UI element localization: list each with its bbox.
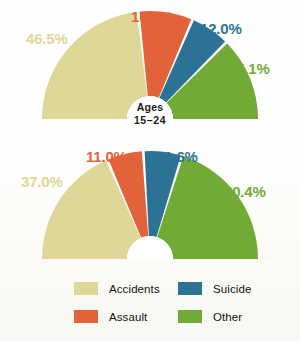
gauge-svg-1 <box>0 140 300 280</box>
value-label-suicide-15-24: 12.0% <box>200 20 242 37</box>
legend-item-accidents: Accidents <box>74 282 160 295</box>
legend-label-accidents: Accidents <box>109 283 160 295</box>
value-label-suicide-25-34: 11.6% <box>157 148 198 165</box>
value-label-assault-15-24: 16.4% <box>131 8 173 25</box>
infographic-figure: Ages 15–24 46.5% 16.4% 12.0% 25.1% Ages … <box>0 0 300 341</box>
hub-line-1: Ages <box>0 101 300 114</box>
legend-item-other: Other <box>178 310 242 323</box>
legend-label-suicide: Suicide <box>213 283 251 295</box>
legend-swatch-assault <box>74 310 98 323</box>
legend-item-assault: Assault <box>74 310 147 323</box>
legend: Accidents Assault Suicide Other <box>0 278 300 341</box>
legend-label-other: Other <box>213 311 242 323</box>
legend-swatch-other <box>178 310 202 323</box>
value-label-assault-25-34: 11.0% <box>86 148 127 165</box>
legend-swatch-accidents <box>74 282 98 295</box>
legend-swatch-suicide <box>178 282 202 295</box>
value-label-accidents-15-24: 46.5% <box>26 30 68 47</box>
legend-label-assault: Assault <box>109 311 147 323</box>
value-label-accidents-25-34: 37.0% <box>21 173 63 190</box>
gauge-chart-ages-25-34: Ages 25–34 <box>0 140 300 280</box>
value-label-other-25-34: 40.4% <box>224 183 266 200</box>
hub-line-2: 15–24 <box>0 114 300 127</box>
hub-label-0: Ages 15–24 <box>0 101 300 126</box>
value-label-other-15-24: 25.1% <box>228 60 270 77</box>
legend-item-suicide: Suicide <box>178 282 251 295</box>
